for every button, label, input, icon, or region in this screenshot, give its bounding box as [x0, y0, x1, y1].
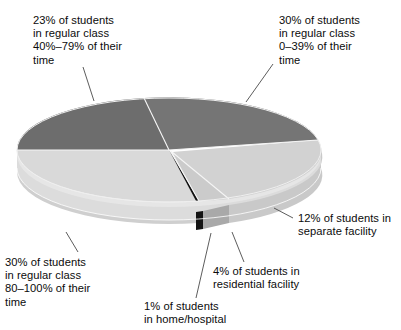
label-separate-facility: 12% of students in separate facility — [298, 212, 401, 238]
label-regular-class-40-79: 23% of students in regular class 40%–79%… — [33, 14, 163, 67]
label-home-hospital: 1% of students in home/hospital — [144, 300, 264, 326]
pie-wall-home-hospital — [196, 211, 203, 230]
leader-line-80-100 — [66, 232, 78, 252]
label-regular-class-0-39: 30% of students in regular class 0–39% o… — [279, 14, 399, 67]
label-regular-class-80-100: 30% of students in regular class 80–100%… — [5, 256, 135, 309]
pie-top-face — [17, 97, 322, 202]
slice-regular-class-40-79[interactable] — [17, 98, 169, 150]
leader-line-home-hospital — [196, 233, 211, 298]
label-residential-facility: 4% of students in residential facility — [213, 265, 338, 291]
leader-line-0-39 — [246, 64, 273, 102]
pie-chart-figure: 23% of students in regular class 40%–79%… — [0, 0, 401, 330]
leader-line-40-79 — [83, 67, 94, 101]
leader-line-residential — [232, 232, 244, 262]
